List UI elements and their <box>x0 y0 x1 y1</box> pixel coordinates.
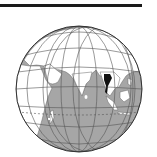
land-sri-lanka <box>85 95 88 99</box>
land-island <box>48 118 50 120</box>
globe-map <box>0 0 157 157</box>
